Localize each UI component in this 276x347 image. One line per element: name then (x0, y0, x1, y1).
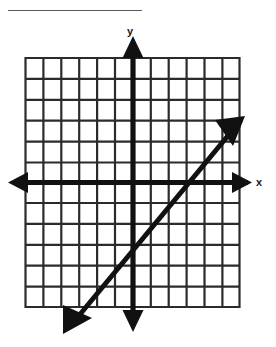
coordinate-plane: y x (0, 0, 276, 347)
x-axis-label: x (256, 177, 262, 188)
figure-root: y x (0, 0, 276, 347)
x-axis-left-arrowhead (8, 172, 28, 193)
y-axis-label: y (127, 26, 133, 37)
y-axis-bottom-arrowhead (123, 310, 144, 332)
y-axis-top-arrowhead (123, 36, 144, 58)
x-axis-right-arrowhead (232, 172, 252, 193)
data-line-lower-arrowhead (63, 305, 92, 334)
coordinate-plane-svg (0, 0, 276, 347)
x-axis (8, 172, 252, 193)
data-line (63, 116, 245, 334)
